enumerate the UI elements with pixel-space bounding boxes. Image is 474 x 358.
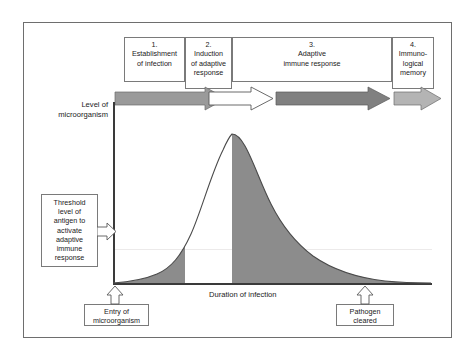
phase-arrows-group <box>113 86 443 116</box>
pathogen-cleared-callout-text: Pathogencleared <box>350 307 381 325</box>
phase-3-arrow <box>276 87 390 110</box>
pathogen-cleared-callout-box: Pathogencleared <box>336 304 394 326</box>
threshold-callout-pointer <box>97 222 117 241</box>
curve-fill-right <box>232 134 431 283</box>
threshold-callout-text: Thresholdlevel ofantigen toactivateadapt… <box>54 198 86 262</box>
y-axis-label-line1: Level of <box>81 100 108 109</box>
phase-3-number: 3. <box>233 40 391 49</box>
phase-1-number: 1. <box>125 40 184 49</box>
phase-4-label: Immuno-logicalmemory <box>393 49 433 77</box>
threshold-callout-box: Thresholdlevel ofantigen toactivateadapt… <box>41 194 98 267</box>
infection-curve-svg <box>113 128 433 285</box>
phase-1-label: Establishmentof infection <box>125 49 184 68</box>
entry-callout-text: Entry ofmicroorganism <box>93 307 140 325</box>
phase-box-1: 1. Establishmentof infection <box>124 37 185 82</box>
phase-4-number: 4. <box>393 40 433 49</box>
pathogen-cleared-callout-pointer <box>356 286 374 305</box>
phase-2-arrow <box>209 87 273 110</box>
phase-box-3: 3. Adaptiveimmune response <box>232 37 392 82</box>
curve-fill-left <box>113 134 232 283</box>
phase-box-2: 2. Inductionof adaptiveresponse <box>185 37 232 89</box>
x-axis-label: Duration of infection <box>209 290 277 299</box>
y-axis-label: Level of microorganism <box>30 100 108 120</box>
infection-course-figure: 1. Establishmentof infection 2. Inductio… <box>0 0 474 358</box>
y-axis-label-line2: microorganism <box>58 110 108 119</box>
infection-curve <box>113 128 433 285</box>
phase-2-number: 2. <box>186 40 231 49</box>
phase-box-4: 4. Immuno-logicalmemory <box>392 37 434 89</box>
phase-2-label: Inductionof adaptiveresponse <box>186 49 231 77</box>
entry-callout-pointer <box>106 286 124 305</box>
phase-3-label: Adaptiveimmune response <box>233 49 391 68</box>
entry-callout-box: Entry ofmicroorganism <box>84 304 149 326</box>
phase-4-arrow <box>394 87 441 110</box>
